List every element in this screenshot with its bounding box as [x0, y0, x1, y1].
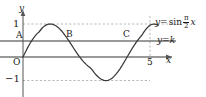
x-axis-label: x [166, 56, 171, 65]
equation-equals-symbol: = [160, 18, 168, 27]
point-label-a: A [16, 31, 23, 40]
point-label-c: C [123, 30, 130, 39]
equation-fraction-pi-over-2: π 2 [183, 15, 190, 30]
origin-label: O [13, 58, 20, 67]
curve-equation-label: y = sin π 2 x [155, 15, 196, 30]
y-axis-label: y [19, 4, 24, 13]
x-tick-label-5: 5 [147, 58, 153, 67]
y-tick-label-negative-1: −1 [5, 74, 20, 84]
equation-fraction-numerator: π [183, 15, 190, 22]
equation-sin-symbol: sin [169, 18, 182, 27]
sine-curve [23, 24, 158, 81]
equation-x-symbol: x [191, 18, 196, 27]
equation-fraction-denominator: 2 [183, 22, 189, 30]
line-k-equation-label: y=k [157, 36, 175, 45]
y-tick-label-1: 1 [13, 19, 19, 29]
math-graph-figure: y x O 1 −1 5 A B C y = sin π 2 x y=k [0, 0, 206, 97]
point-label-b: B [66, 30, 73, 39]
